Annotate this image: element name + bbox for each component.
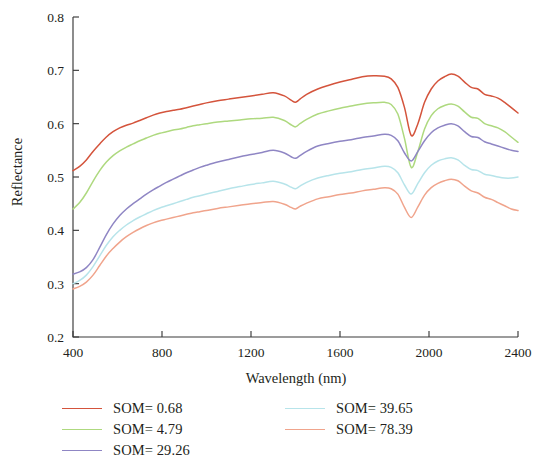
y-tick-label: 0.5 bbox=[47, 170, 64, 185]
x-axis-tick-labels: 4008001200160020002400 bbox=[63, 345, 532, 360]
legend-color-swatch bbox=[62, 408, 102, 409]
x-tick-label: 2400 bbox=[505, 345, 532, 360]
legend-column-right: SOM= 39.65SOM= 78.39 bbox=[285, 398, 413, 440]
x-tick-label: 400 bbox=[63, 345, 84, 360]
legend-color-swatch bbox=[62, 429, 102, 430]
legend-item[interactable]: SOM= 4.79 bbox=[62, 419, 190, 440]
y-tick-label: 0.6 bbox=[47, 117, 64, 132]
plot-area: 0.20.30.40.50.60.70.8 400800120016002000… bbox=[0, 0, 539, 400]
y-tick-label: 0.8 bbox=[47, 10, 64, 25]
series-line bbox=[73, 158, 518, 284]
legend-color-swatch bbox=[62, 450, 102, 451]
legend-item[interactable]: SOM= 29.26 bbox=[62, 440, 190, 461]
series-line bbox=[73, 179, 518, 289]
x-tick-label: 800 bbox=[152, 345, 173, 360]
chart-legend: SOM= 0.68SOM= 4.79SOM= 29.26 SOM= 39.65S… bbox=[0, 398, 539, 462]
series-group bbox=[73, 74, 518, 289]
x-tick-label: 2000 bbox=[416, 345, 443, 360]
legend-color-swatch bbox=[285, 429, 325, 430]
legend-item-label: SOM= 78.39 bbox=[336, 421, 413, 438]
y-tick-label: 0.2 bbox=[47, 330, 64, 345]
legend-column-left: SOM= 0.68SOM= 4.79SOM= 29.26 bbox=[62, 398, 190, 461]
legend-item-label: SOM= 39.65 bbox=[336, 400, 413, 417]
legend-color-swatch bbox=[285, 408, 325, 409]
legend-item-label: SOM= 0.68 bbox=[113, 400, 183, 417]
series-line bbox=[73, 102, 518, 209]
legend-item-label: SOM= 29.26 bbox=[113, 442, 190, 459]
x-tick-label: 1200 bbox=[238, 345, 265, 360]
y-tick-label: 0.4 bbox=[47, 223, 64, 238]
legend-item[interactable]: SOM= 78.39 bbox=[285, 419, 413, 440]
x-axis-title: Wavelength (nm) bbox=[246, 370, 347, 387]
y-tick-label: 0.7 bbox=[47, 63, 64, 78]
legend-item-label: SOM= 4.79 bbox=[113, 421, 183, 438]
axis-frame bbox=[73, 17, 518, 337]
legend-item[interactable]: SOM= 0.68 bbox=[62, 398, 190, 419]
chart-svg: 0.20.30.40.50.60.70.8 400800120016002000… bbox=[0, 0, 539, 400]
series-line bbox=[73, 74, 518, 171]
spectral-reflectance-figure: 0.20.30.40.50.60.70.8 400800120016002000… bbox=[0, 0, 539, 462]
x-axis-tick-group bbox=[73, 331, 518, 337]
y-axis-tick-labels: 0.20.30.40.50.60.70.8 bbox=[47, 10, 64, 345]
series-line bbox=[73, 124, 518, 274]
legend-item[interactable]: SOM= 39.65 bbox=[285, 398, 413, 419]
y-axis-title: Reflectance bbox=[9, 138, 25, 206]
x-tick-label: 1600 bbox=[327, 345, 354, 360]
y-tick-label: 0.3 bbox=[47, 277, 64, 292]
